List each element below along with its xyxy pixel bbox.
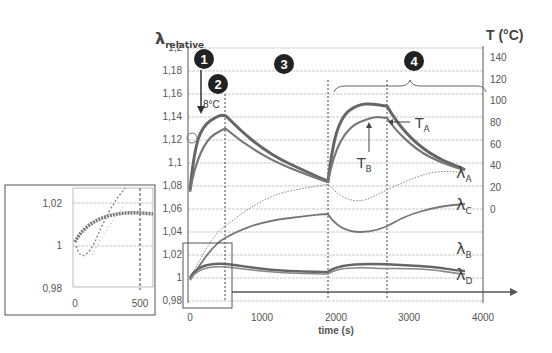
y-tick: 1,04 xyxy=(163,226,183,237)
phase-marker-1: 1 xyxy=(194,49,214,69)
y-axis-label: λrelative xyxy=(155,29,204,50)
y-tick: 1,16 xyxy=(163,88,183,99)
inset-chart: 1,02 1 0,98 0 500 xyxy=(5,185,155,315)
x-tick: 3000 xyxy=(398,312,421,323)
temp-annotation: 8°C xyxy=(203,99,220,110)
x-tick: 2000 xyxy=(325,312,348,323)
y-tick: 1,1 xyxy=(168,157,182,168)
phase-marker-4: 4 xyxy=(404,51,424,71)
svg-text:3: 3 xyxy=(280,57,287,72)
y2-ticks: 140 120 100 80 60 40 20 0 xyxy=(490,52,507,215)
y2-tick: 140 xyxy=(490,52,507,63)
y2-tick: 60 xyxy=(490,139,502,150)
y2-tick: 100 xyxy=(490,95,507,106)
y-tick: 1,08 xyxy=(163,180,183,191)
y-tick: 1,18 xyxy=(163,65,183,76)
label-lambda-C: λC xyxy=(456,195,472,216)
phase-marker-2: 2 xyxy=(208,74,228,94)
x-ticks: 0 1000 2000 3000 4000 xyxy=(187,312,494,323)
y-tick: 0,98 xyxy=(163,295,183,306)
inset-y-tick: 0,98 xyxy=(43,283,63,294)
svg-text:2: 2 xyxy=(214,77,221,92)
inset-y-tick: 1 xyxy=(56,240,62,251)
arrow-head-icon xyxy=(510,288,518,296)
label-lambda-D: λD xyxy=(456,265,472,286)
brace xyxy=(334,80,486,92)
inset-x-tick: 500 xyxy=(132,298,149,309)
y-tick: 1,02 xyxy=(163,249,183,260)
svg-text:4: 4 xyxy=(410,54,418,69)
inset-y-tick: 1,02 xyxy=(43,198,63,209)
label-lambda-A: λA xyxy=(456,163,472,184)
label-TB: TB xyxy=(356,155,372,174)
x-tick: 0 xyxy=(187,312,193,323)
x-axis-label: time (s) xyxy=(318,325,354,336)
y-tick: 1 xyxy=(176,272,182,283)
x-tick: 1000 xyxy=(251,312,274,323)
y-tick: 1,12 xyxy=(163,134,183,145)
inset-x-tick: 0 xyxy=(72,298,78,309)
x-tick: 4000 xyxy=(472,312,495,323)
y2-tick: 20 xyxy=(490,182,502,193)
y-tick: 1,14 xyxy=(163,111,183,122)
y-tick: 1,06 xyxy=(163,203,183,214)
y2-tick: 120 xyxy=(490,74,507,85)
y2-axis-label: T (°C) xyxy=(486,27,523,43)
y2-tick: 80 xyxy=(490,117,502,128)
y2-tick: 0 xyxy=(490,204,496,215)
chart: 1,2 1,18 1,16 1,14 1,12 1,1 1,08 1,06 1,… xyxy=(0,0,552,353)
label-TA: TA xyxy=(414,115,431,134)
phase-marker-3: 3 xyxy=(274,54,294,74)
y2-tick: 40 xyxy=(490,160,502,171)
phase-markers: 1 2 3 4 xyxy=(194,49,424,94)
svg-text:1: 1 xyxy=(200,52,207,67)
y-ticks: 1,2 1,18 1,16 1,14 1,12 1,1 1,08 1,06 1,… xyxy=(163,42,183,306)
label-lambda-B: λB xyxy=(456,239,472,260)
